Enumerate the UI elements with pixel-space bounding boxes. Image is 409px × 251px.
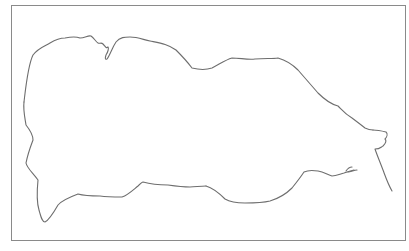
sketch-outline [0,0,409,251]
bottom-contour [206,170,354,203]
left-contour [24,102,206,222]
right-contour [373,130,392,191]
top-contour [24,36,373,130]
